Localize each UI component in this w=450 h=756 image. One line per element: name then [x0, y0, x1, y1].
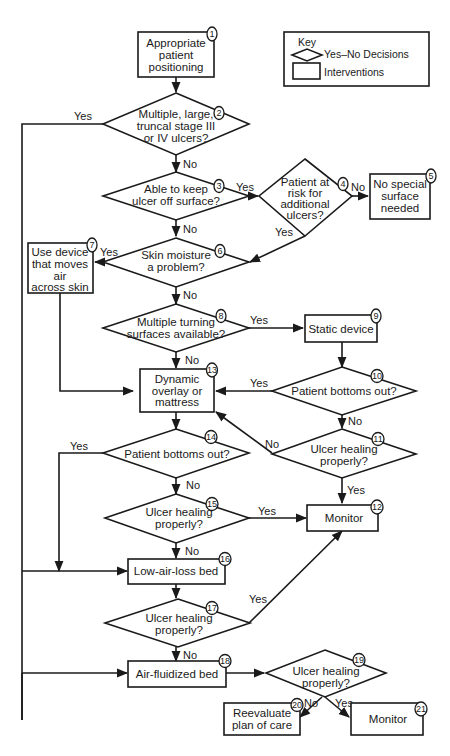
svg-text:properly?: properly?	[155, 518, 203, 530]
key-decision-label: Yes–No Decisions	[324, 48, 409, 60]
svg-text:Ulcer healing: Ulcer healing	[145, 612, 212, 624]
svg-text:Low-air-loss bed: Low-air-loss bed	[134, 565, 218, 577]
svg-text:Patient bottoms out?: Patient bottoms out?	[124, 448, 229, 460]
node-18-air-fluidized-bed: Air-fluidized bed 18	[128, 655, 231, 688]
svg-text:Patient bottoms out?: Patient bottoms out?	[291, 385, 396, 397]
svg-text:Ulcer healing: Ulcer healing	[310, 443, 377, 455]
svg-text:Monitor: Monitor	[325, 512, 364, 524]
node-17-ulcer-healing-decision: Ulcer healing properly? 17	[105, 599, 250, 647]
svg-text:Skin moisture: Skin moisture	[141, 249, 211, 261]
edge-label-17-no: No	[183, 649, 197, 661]
svg-text:positioning: positioning	[149, 61, 204, 73]
step-number: 11	[373, 434, 382, 444]
pressure-ulcer-flowchart: Key Yes–No Decisions Interventions	[0, 0, 450, 756]
key-intervention-label: Interventions	[324, 66, 384, 78]
svg-text:Dynamic: Dynamic	[155, 373, 200, 385]
node-12-monitor: Monitor 12	[307, 500, 383, 531]
step-number: 8	[218, 311, 223, 321]
edge-label-10-yes: Yes	[250, 377, 268, 389]
svg-text:Appropriate: Appropriate	[146, 37, 205, 49]
svg-text:properly?: properly?	[320, 455, 368, 467]
svg-text:or IV ulcers?: or IV ulcers?	[144, 132, 209, 144]
svg-text:Ulcer healing: Ulcer healing	[292, 665, 359, 677]
svg-text:across skin: across skin	[31, 281, 89, 293]
edge-label-11-yes: Yes	[347, 484, 365, 496]
svg-text:patient: patient	[159, 49, 194, 61]
node-11-ulcer-healing-decision: Ulcer healing properly? 11	[272, 429, 416, 478]
legend-key: Key Yes–No Decisions Interventions	[284, 32, 429, 86]
node-6-skin-moisture-decision: Skin moisture a problem? 6	[103, 238, 249, 287]
node-19-ulcer-healing-decision: Ulcer healing properly? 19	[266, 650, 386, 697]
edge-label-17-yes: Yes	[249, 593, 267, 605]
node-2-truncal-ulcers-decision: Multiple, large, truncal stage III or IV…	[103, 93, 249, 155]
step-number: 10	[372, 371, 382, 381]
step-number: 14	[206, 432, 216, 442]
step-number: 12	[372, 502, 382, 512]
step-number: 2	[216, 108, 221, 118]
edge-label-19-no: No	[304, 697, 318, 709]
svg-text:plan of care: plan of care	[232, 719, 292, 731]
edge-label-8-no: No	[185, 354, 199, 366]
svg-text:needed: needed	[381, 202, 419, 214]
step-number: 3	[216, 181, 221, 191]
node-5-no-special-surface: No special surface needed 5	[370, 169, 436, 219]
node-8-turning-surfaces-decision: Multiple turning surfaces available? 8	[103, 304, 249, 352]
svg-text:Monitor: Monitor	[369, 713, 408, 725]
node-16-low-air-loss-bed: Low-air-loss bed 16	[128, 553, 231, 585]
step-number: 9	[373, 311, 378, 321]
node-1-appropriate-positioning: Appropriate patient positioning 1	[138, 27, 217, 77]
svg-text:that moves: that moves	[32, 258, 88, 270]
step-number: 4	[340, 179, 345, 189]
step-number: 6	[217, 246, 222, 256]
edge-label-14-yes: Yes	[70, 440, 88, 452]
step-number: 5	[428, 171, 433, 181]
edge-label-4-yes: Yes	[275, 226, 293, 238]
edge-label-3-yes: Yes	[236, 181, 254, 193]
svg-text:truncal stage III: truncal stage III	[137, 120, 216, 132]
step-number: 19	[354, 655, 364, 665]
edge-label-6-no: No	[183, 289, 197, 301]
edge-label-10-no: No	[348, 415, 362, 427]
step-number: 21	[416, 704, 426, 714]
step-number: 7	[89, 240, 94, 250]
node-15-ulcer-healing-decision: Ulcer healing properly? 15	[105, 494, 249, 543]
edge-label-4-no: No	[351, 181, 365, 193]
edge-label-3-no: No	[183, 223, 197, 235]
step-number: 18	[220, 656, 230, 666]
edge-label-11-no: No	[265, 438, 279, 450]
svg-text:Air-fluidized bed: Air-fluidized bed	[136, 668, 218, 680]
node-7-air-moving-device: Use device that moves air across skin 7	[28, 238, 97, 293]
svg-text:Use device: Use device	[32, 246, 89, 258]
svg-text:Multiple, large,: Multiple, large,	[139, 108, 214, 120]
svg-text:No special: No special	[373, 178, 427, 190]
svg-text:Static device: Static device	[308, 323, 373, 335]
edge-label-8-yes: Yes	[250, 314, 268, 326]
svg-text:properly?: properly?	[155, 624, 203, 636]
step-number: 20	[292, 700, 302, 710]
edge-label-15-yes: Yes	[258, 505, 276, 517]
svg-text:ulcers?: ulcers?	[286, 209, 323, 221]
svg-text:surface: surface	[381, 190, 419, 202]
svg-text:properly?: properly?	[302, 677, 350, 689]
edge-label-15-no: No	[185, 545, 199, 557]
node-3-keep-ulcer-off-decision: Able to keep ulcer off surface? 3	[103, 172, 249, 220]
node-20-reevaluate-plan: Reevaluate plan of care 20	[224, 699, 303, 736]
step-number: 13	[207, 365, 217, 375]
svg-text:Ulcer healing: Ulcer healing	[145, 506, 212, 518]
edge-label-2-no: No	[183, 158, 197, 170]
node-13-dynamic-overlay: Dynamic overlay or mattress 13	[140, 363, 218, 412]
node-14-bottoms-out-decision: Patient bottoms out? 14	[103, 429, 249, 478]
step-number: 17	[207, 603, 217, 613]
node-10-bottoms-out-decision: Patient bottoms out? 10	[272, 367, 416, 415]
svg-text:Reevaluate: Reevaluate	[233, 707, 291, 719]
svg-text:surfaces available?: surfaces available?	[127, 328, 225, 340]
step-number: 15	[207, 499, 217, 509]
svg-text:Able to keep: Able to keep	[144, 183, 208, 195]
svg-text:a problem?: a problem?	[147, 261, 205, 273]
svg-text:ulcer off surface?: ulcer off surface?	[132, 195, 220, 207]
node-4-risk-additional-ulcers-decision: Patient at risk for additional ulcers? 4	[259, 159, 352, 236]
svg-text:Multiple turning: Multiple turning	[137, 316, 215, 328]
edge-label-6-yes: Yes	[100, 246, 118, 258]
node-21-monitor: Monitor 21	[351, 702, 427, 735]
key-title: Key	[298, 36, 317, 48]
